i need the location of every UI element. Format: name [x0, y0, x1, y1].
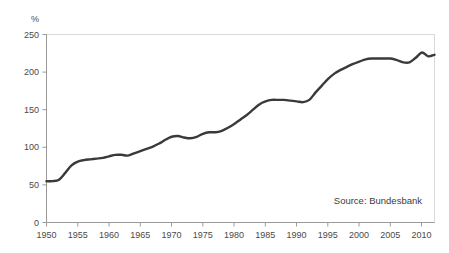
data-line-ratio: [47, 53, 435, 182]
x-axis-tick-label-1955: 1955: [68, 230, 88, 240]
y-axis-tick-label-50: 50: [29, 180, 39, 190]
x-axis-tick-label-1965: 1965: [130, 230, 150, 240]
chart-canvas: % 250 200 150 100 50 0: [0, 0, 449, 253]
x-axis-tick-label-1950: 1950: [36, 230, 56, 240]
x-axis-tick-label-1985: 1985: [255, 230, 275, 240]
y-axis-tick-label-150: 150: [24, 105, 39, 115]
y-axis-tick-label-250: 250: [24, 30, 39, 40]
series-group: [47, 53, 435, 182]
y-axis-group: % 250 200 150 100 50 0: [24, 14, 47, 228]
y-axis-unit-label: %: [31, 14, 39, 24]
chart-container: % 250 200 150 100 50 0: [0, 0, 449, 253]
x-axis-tick-label-1960: 1960: [99, 230, 119, 240]
source-note-label: Source: Bundesbank: [334, 195, 422, 206]
x-axis-tick-label-2005: 2005: [380, 230, 400, 240]
x-axis-tick-label-1990: 1990: [286, 230, 306, 240]
x-axis-tick-label-2010: 2010: [411, 230, 431, 240]
y-tick-marks: [43, 35, 47, 223]
x-axis-tick-label-2000: 2000: [349, 230, 369, 240]
x-tick-marks: [47, 223, 422, 227]
y-axis-tick-label-200: 200: [24, 67, 39, 77]
x-axis-tick-label-1975: 1975: [193, 230, 213, 240]
x-axis-tick-label-1970: 1970: [161, 230, 181, 240]
x-axis-tick-label-1980: 1980: [224, 230, 244, 240]
x-axis-group: 1950 1955 1960 1965 1970 1975 1980 1985 …: [36, 223, 434, 241]
y-axis-tick-label-0: 0: [34, 218, 39, 228]
y-axis-tick-label-100: 100: [24, 142, 39, 152]
x-axis-tick-label-1995: 1995: [318, 230, 338, 240]
